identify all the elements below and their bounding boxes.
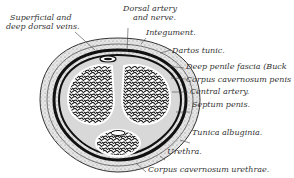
label-dorsal-artery-line2: and nerve.: [133, 13, 176, 22]
label-dorsal-artery-line1: Dorsal artery: [123, 4, 177, 13]
label-bucks-fascia: Deep penile fascia (Buck: [186, 62, 287, 71]
label-superficial-veins-line2: deep dorsal veins.: [6, 22, 80, 31]
label-corpus-cavernosum-urethrae: Corpus cavernosum urethrae.: [148, 165, 269, 174]
label-integument: Integument.: [146, 28, 196, 37]
label-superficial-veins-line1: Superficial and: [10, 13, 72, 22]
label-dartos-tunic: Dartos tunic.: [172, 46, 225, 55]
label-central-artery: Central artery.: [190, 87, 249, 96]
label-corpus-cavernosum-penis: Corpus cavernosum penis: [186, 75, 291, 84]
label-tunica-albuginia: Tunica albuginia.: [192, 128, 262, 137]
label-septum-penis: Septum penis.: [192, 100, 250, 109]
anatomy-diagram: Superficial and deep dorsal veins. Dorsa…: [0, 0, 294, 178]
label-urethra: Urethra.: [167, 147, 202, 156]
